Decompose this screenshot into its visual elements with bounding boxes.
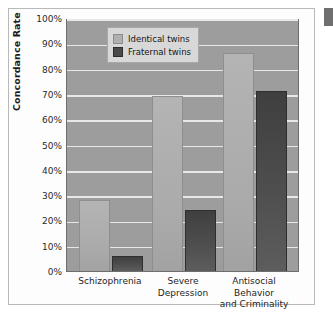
gridline (67, 70, 298, 72)
legend: Identical twins Fraternal twins (107, 27, 199, 63)
legend-label-fraternal-twins: Fraternal twins (128, 47, 191, 57)
x-axis-category-label-line: and Criminality (217, 299, 291, 311)
bar-identical-twins (223, 53, 254, 271)
bar-fraternal-twins (112, 256, 143, 271)
x-axis-category-label: Antisocial Behaviorand Criminality (217, 276, 291, 311)
y-axis-tick-label: 90% (18, 39, 62, 49)
bar-fraternal-twins (185, 210, 216, 271)
y-axis-tick-label: 70% (18, 90, 62, 100)
legend-label-identical-twins: Identical twins (128, 34, 190, 44)
legend-swatch-icon-fraternal-twins (113, 47, 123, 57)
x-axis-category-label: Schizophrenia (73, 276, 147, 288)
y-axis-tick-label: 80% (18, 65, 62, 75)
x-axis-category-label-line: Antisocial Behavior (217, 276, 291, 299)
y-axis-tick-label: 50% (18, 141, 62, 151)
x-axis-category-label-line: Schizophrenia (73, 276, 147, 288)
x-axis-category-label-line: Severe (146, 276, 220, 288)
x-axis-category-label-line: Depression (146, 288, 220, 300)
y-axis-tick-label: 0% (18, 267, 62, 277)
y-axis-tick-labels: 100%90%80%70%60%50%40%30%20%10%0% (16, 19, 62, 272)
scan-edge-artifact (324, 8, 333, 26)
legend-item-fraternal-twins: Fraternal twins (113, 45, 191, 58)
bar-identical-twins (79, 200, 110, 271)
y-axis-tick-label: 20% (18, 216, 62, 226)
gridline (67, 19, 298, 21)
bar-identical-twins (152, 96, 183, 271)
bar-fraternal-twins (256, 91, 287, 271)
y-axis-tick-label: 100% (18, 14, 62, 24)
y-axis-tick-label: 10% (18, 242, 62, 252)
x-axis-category-labels: SchizophreniaSevereDepressionAntisocial … (66, 276, 299, 310)
y-axis-tick-label: 30% (18, 191, 62, 201)
plot-area: Identical twins Fraternal twins (66, 19, 299, 272)
y-axis-tick-label: 40% (18, 166, 62, 176)
legend-swatch-icon-identical-twins (113, 34, 123, 44)
legend-item-identical-twins: Identical twins (113, 32, 191, 45)
x-axis-category-label: SevereDepression (146, 276, 220, 299)
y-axis-tick-label: 60% (18, 115, 62, 125)
